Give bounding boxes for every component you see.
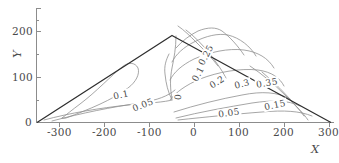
- axis-lines: [37, 8, 335, 123]
- contour-level-005-right: [178, 111, 312, 120]
- x-tick-label-0: 0: [190, 126, 197, 138]
- y-tick-label-200: 200: [12, 25, 32, 37]
- x-tick-label--300: -300: [47, 126, 72, 138]
- contour-level-0-upper: [171, 36, 177, 99]
- y-tick-label-0: 0: [22, 116, 32, 128]
- contour-label-0: 0: [173, 93, 184, 102]
- y-axis-title: Y: [10, 50, 24, 58]
- y-axis-ticks: [37, 8, 42, 123]
- x-axis-title: X: [311, 142, 319, 156]
- x-tick-label--100: -100: [137, 126, 162, 138]
- x-tick-label-100: 100: [228, 126, 249, 138]
- x-tick-label-200: 200: [273, 126, 294, 138]
- x-tick-label--200: -200: [92, 126, 117, 138]
- y-tick-label-100: 100: [12, 71, 32, 83]
- x-tick-label-300: 300: [318, 126, 339, 138]
